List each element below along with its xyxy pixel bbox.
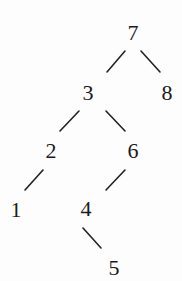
node-4: 4 — [81, 198, 92, 220]
node-5: 5 — [109, 257, 120, 279]
node-2: 2 — [46, 140, 57, 162]
node-8: 8 — [162, 82, 173, 104]
edge-4-5 — [83, 228, 101, 248]
edge-3-2 — [60, 111, 79, 131]
edge-7-8 — [141, 51, 160, 72]
node-1: 1 — [11, 199, 22, 221]
node-6: 6 — [128, 140, 139, 162]
edge-2-1 — [25, 170, 43, 190]
edge-3-6 — [106, 111, 125, 131]
node-3: 3 — [83, 82, 94, 104]
edge-7-3 — [107, 51, 125, 72]
edges-layer — [0, 0, 182, 281]
edge-6-4 — [106, 170, 125, 190]
node-7: 7 — [128, 22, 139, 44]
tree-diagram: 7 3 8 2 6 1 4 5 — [0, 0, 182, 281]
